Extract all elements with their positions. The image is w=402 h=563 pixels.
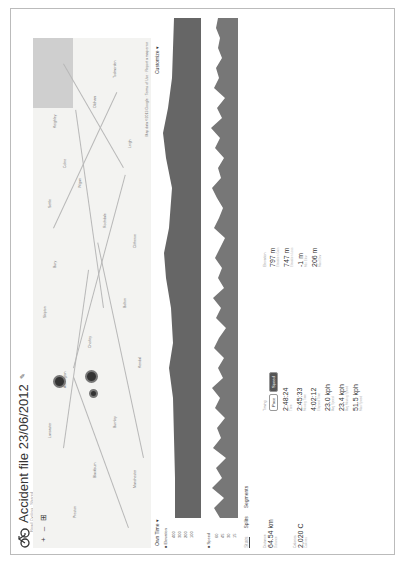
speed-chart[interactable]: ■ Speed 60 45 30 15 — [206, 12, 238, 548]
customize-label: Customize — [154, 50, 160, 74]
map-label: Burnley — [113, 416, 117, 428]
stat-sub: Min Elev — [304, 247, 308, 267]
stat-sub: Time — [289, 372, 293, 411]
bicycle-icon — [16, 528, 30, 548]
map-label: Bolton — [123, 298, 127, 308]
speed-legend[interactable]: ■ Speed — [206, 533, 211, 548]
stat-value: 23.4 kph — [338, 372, 345, 411]
map-label: Colne — [63, 159, 67, 168]
stat-value: 206 m — [311, 247, 318, 267]
route-end-marker[interactable] — [85, 370, 98, 383]
map-label: Bury — [53, 261, 57, 268]
map-label: Blackburn — [93, 462, 97, 478]
map-label: Keighley — [53, 115, 57, 128]
timing-item: 23.4 kphAvg Moving Speed — [338, 372, 349, 411]
stat-value: 2:45:33 — [296, 372, 303, 411]
map-label: Skipton — [43, 306, 47, 318]
tab-stats[interactable]: Stats — [243, 537, 250, 548]
stat-sub: Elevation Loss — [290, 247, 294, 267]
speed-area — [206, 18, 238, 518]
elevation-y-ticks: 400 300 200 100 — [171, 531, 195, 538]
timing-item: 4:02:12Elapsed Time — [310, 372, 321, 411]
timing-item: 2:45:33Moving Time — [296, 372, 307, 411]
calories-stat: Calories 2,020 C Calories — [293, 523, 308, 548]
elevation-item: 797 mElevation Gain — [269, 247, 280, 267]
stat-sub: Max Speed — [359, 372, 363, 411]
timing-item: 51.5 kphMax Speed — [352, 372, 363, 411]
stat-value: 2,020 C — [297, 523, 304, 548]
speed-toggle-button[interactable]: Speed — [269, 372, 278, 392]
stat-value: 51.5 kph — [352, 372, 359, 411]
zoom-in-button[interactable]: + — [39, 537, 48, 542]
route-start-marker[interactable] — [53, 375, 66, 388]
y-tick: 100 — [189, 531, 195, 538]
speed-legend-label: Speed — [206, 533, 211, 545]
stat-sub: Avg Speed — [331, 372, 335, 411]
map-label: Lancaster — [48, 423, 52, 438]
customize-button[interactable]: Customize ▾ — [154, 46, 160, 74]
tab-segments[interactable]: Segments — [243, 486, 250, 509]
route-map[interactable]: + – ⊞ Preston Blackburn Burnley Accringt… — [33, 38, 151, 548]
elevation-stats: Elevation 797 mElevation Gain 747 mEleva… — [263, 247, 322, 267]
map-label: Rochdale — [103, 213, 107, 228]
stat-value: 4:02:12 — [310, 372, 317, 411]
elevation-label: Elevation — [263, 247, 267, 267]
map-label: Wigan — [78, 178, 82, 188]
speed-y-ticks: 60 45 30 15 — [214, 534, 238, 538]
elevation-item: 747 mElevation Loss — [283, 247, 294, 267]
x-axis-select[interactable]: Own Time ▾ — [154, 519, 160, 546]
elevation-item: 206 mMax Elev — [311, 247, 322, 267]
map-label: Chorley — [88, 336, 92, 348]
map-label: Clitheroe — [133, 234, 137, 248]
distance-stat: Distance 64.54 km Distance — [263, 519, 278, 548]
pace-speed-toggle: Pace Speed — [269, 372, 278, 411]
timing-item: 2:48:24Time — [282, 372, 293, 411]
elevation-legend-label: Elevation — [163, 528, 168, 544]
timing-label: Timing — [263, 372, 267, 411]
stat-value: 23.0 kph — [324, 372, 331, 411]
stat-sub: Avg Moving Speed — [345, 372, 349, 411]
route-point-marker[interactable] — [89, 389, 98, 398]
map-attribution[interactable]: Map data ©2013 Google · Terms of Use · R… — [145, 42, 149, 137]
stat-value: -1 m — [297, 247, 304, 267]
stat-sub: Calories — [304, 523, 308, 548]
tab-splits[interactable]: Splits — [243, 516, 250, 528]
stat-value: 747 m — [283, 247, 290, 267]
elevation-chart[interactable]: ■ Elevation 400 300 200 100 — [163, 12, 201, 548]
pencil-icon[interactable]: ✎ — [19, 373, 27, 379]
stat-sub: Elevation Gain — [276, 247, 280, 267]
sea-area — [33, 38, 73, 108]
stat-value: 64.54 km — [267, 519, 274, 548]
timing-stats: Timing Pace Speed 2:48:24Time 2:45:33Mov… — [263, 372, 363, 411]
stat-sub: Elapsed Time — [317, 372, 321, 411]
stat-sub: Max Elev — [318, 247, 322, 267]
map-label: Kendal — [138, 357, 142, 368]
elevation-item: -1 mMin Elev — [297, 247, 308, 267]
timing-item: 23.0 kphAvg Speed — [324, 372, 335, 411]
map-label: Manchester — [133, 470, 137, 488]
zoom-out-button[interactable]: – — [39, 527, 48, 531]
stats-tabs: Stats Splits Segments — [243, 486, 251, 548]
map-label: Leigh — [128, 139, 132, 148]
stat-value: 797 m — [269, 247, 276, 267]
map-label: Todmorden — [113, 60, 117, 78]
y-tick: 15 — [232, 534, 238, 538]
activity-page: Accident file 23/06/2012 ✎ Road Cycling … — [10, 8, 395, 555]
stat-value: 2:48:24 — [282, 372, 289, 411]
stat-sub: Moving Time — [303, 372, 307, 411]
elevation-legend[interactable]: ■ Elevation — [163, 528, 168, 548]
layers-icon[interactable]: ⊞ — [39, 514, 48, 521]
x-axis-select-label: Own Time — [154, 523, 160, 546]
pace-toggle-button[interactable]: Pace — [269, 394, 278, 411]
map-zoom-controls: + – ⊞ — [39, 514, 48, 542]
map-label: Oldham — [93, 96, 97, 108]
map-label: Preston — [73, 506, 77, 518]
stat-sub: Distance — [274, 519, 278, 548]
elevation-area — [163, 18, 201, 518]
map-label: Settle — [48, 199, 52, 208]
